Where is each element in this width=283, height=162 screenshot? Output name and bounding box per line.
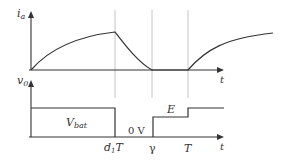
zero-volt-label: 0 V bbox=[128, 125, 146, 136]
arrow-up-icon bbox=[28, 11, 34, 18]
gamma-label: γ bbox=[149, 142, 156, 155]
bottom-y-label: v0 bbox=[17, 74, 28, 88]
waveform-diagram: ia t v0 t Vbat 0 V E d1T γ T bbox=[0, 0, 283, 162]
arrow-up-icon bbox=[28, 80, 34, 87]
e-label: E bbox=[166, 103, 175, 116]
bottom-x-label: t bbox=[220, 141, 225, 152]
period-label: T bbox=[184, 142, 193, 155]
bottom-axes bbox=[28, 80, 224, 140]
vbat-label: Vbat bbox=[66, 116, 88, 130]
arrow-right-icon bbox=[217, 134, 224, 140]
top-x-label: t bbox=[220, 74, 225, 85]
d1t-label: d1T bbox=[104, 141, 125, 155]
arrow-right-icon bbox=[217, 67, 224, 73]
top-y-label: ia bbox=[17, 7, 26, 21]
